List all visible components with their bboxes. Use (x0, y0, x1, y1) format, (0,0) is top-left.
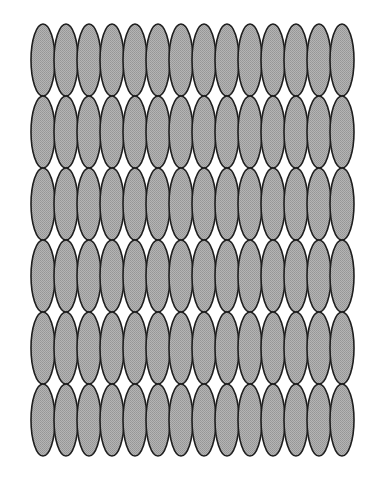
ellipse-cell (123, 24, 147, 96)
ellipse-cell (284, 96, 308, 168)
ellipse-cell (284, 384, 308, 456)
ellipse-cell (100, 240, 124, 312)
ellipse-cell (146, 384, 170, 456)
ellipse-cell (146, 168, 170, 240)
ellipse-cell (192, 168, 216, 240)
ellipse-cell (123, 240, 147, 312)
ellipse-cell (54, 312, 78, 384)
ellipse-cell (215, 24, 239, 96)
ellipse-cell (238, 168, 262, 240)
ellipse-cell (77, 24, 101, 96)
ellipse-cell (146, 240, 170, 312)
ellipse-cell (123, 96, 147, 168)
ellipse-cell (238, 240, 262, 312)
ellipse-cell (169, 168, 193, 240)
ellipse-cell (261, 240, 285, 312)
ellipse-cell (77, 240, 101, 312)
ellipse-cell (146, 24, 170, 96)
ellipse-cell (54, 24, 78, 96)
ellipse-cell (261, 384, 285, 456)
ellipse-cell (330, 384, 354, 456)
ellipse-cell (31, 240, 55, 312)
ellipse-cell (31, 312, 55, 384)
ellipse-cell (284, 312, 308, 384)
ellipse-cell (215, 312, 239, 384)
ellipse-cell (54, 168, 78, 240)
ellipse-cell (123, 312, 147, 384)
ellipse-cell (77, 168, 101, 240)
ellipse-grid-figure (0, 0, 370, 482)
ellipse-cell (307, 168, 331, 240)
ellipse-cell (330, 240, 354, 312)
ellipse-cell (192, 96, 216, 168)
ellipse-cell (238, 24, 262, 96)
ellipse-cell (31, 96, 55, 168)
ellipse-cell (31, 384, 55, 456)
ellipse-cell (146, 312, 170, 384)
ellipse-cell (238, 96, 262, 168)
ellipse-cell (31, 24, 55, 96)
ellipse-cell (192, 312, 216, 384)
ellipse-cell (169, 312, 193, 384)
ellipse-cell (215, 96, 239, 168)
ellipse-cell (169, 24, 193, 96)
ellipse-cell (307, 24, 331, 96)
ellipse-cell (261, 24, 285, 96)
ellipse-cell (100, 168, 124, 240)
ellipse-cell (100, 24, 124, 96)
ellipse-cell (77, 312, 101, 384)
ellipse-cell (192, 240, 216, 312)
ellipse-cell (330, 168, 354, 240)
ellipse-cell (307, 312, 331, 384)
ellipse-cell (100, 384, 124, 456)
ellipse-cell (54, 96, 78, 168)
ellipse-cell (330, 312, 354, 384)
ellipse-cell (307, 240, 331, 312)
ellipse-cell (215, 168, 239, 240)
ellipse-cell (238, 384, 262, 456)
ellipse-cell (100, 312, 124, 384)
ellipse-cell (77, 384, 101, 456)
ellipse-cell (100, 96, 124, 168)
ellipse-cell (192, 24, 216, 96)
ellipse-cell (261, 312, 285, 384)
ellipse-cell (307, 96, 331, 168)
ellipse-cell (169, 96, 193, 168)
ellipse-cell (215, 384, 239, 456)
ellipse-cell (123, 168, 147, 240)
ellipse-cell (169, 240, 193, 312)
ellipse-cell (261, 168, 285, 240)
ellipse-cell (146, 96, 170, 168)
ellipse-cell (284, 24, 308, 96)
ellipse-cell (307, 384, 331, 456)
ellipse-cell (192, 384, 216, 456)
ellipse-cell (330, 96, 354, 168)
ellipse-cell (31, 168, 55, 240)
ellipse-cell (284, 240, 308, 312)
ellipse-cell (238, 312, 262, 384)
ellipse-cell (284, 168, 308, 240)
ellipse-cell (77, 96, 101, 168)
ellipse-cell (123, 384, 147, 456)
ellipse-group (31, 24, 354, 456)
ellipse-cell (330, 24, 354, 96)
ellipse-cell (54, 384, 78, 456)
ellipse-grid (0, 0, 370, 482)
ellipse-cell (169, 384, 193, 456)
ellipse-cell (54, 240, 78, 312)
ellipse-cell (261, 96, 285, 168)
ellipse-cell (215, 240, 239, 312)
